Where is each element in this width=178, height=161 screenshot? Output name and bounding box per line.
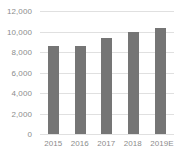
bar-2016 [75,46,86,134]
bar-2019E [155,28,166,134]
y-axis-tick-label: 12,000 [0,7,32,16]
bar-2017 [101,38,112,134]
x-axis-tick-labels: 20152016201720182019E [40,139,178,148]
y-axis-tick-label: 4,000 [0,89,32,98]
bar-chart: 12,00010,0008,0006,0004,0002,0000 201520… [0,0,178,161]
x-axis-tick-label: 2017 [97,139,115,148]
y-axis-tick-label: 6,000 [0,68,32,77]
bar-2015 [48,46,59,134]
y-axis-tick-label: 2,000 [0,109,32,118]
y-axis-tick-label: 0 [0,130,32,139]
x-axis-tick-label: 2018 [124,139,142,148]
gridline [40,134,174,135]
y-axis-tick-label: 8,000 [0,48,32,57]
bar-2018 [128,32,139,135]
x-axis-tick-label: 2019E [150,139,174,148]
x-axis-tick-label: 2015 [44,139,62,148]
bars-layer [40,11,174,134]
x-axis-tick-label: 2016 [71,139,89,148]
y-axis-tick-label: 10,000 [0,27,32,36]
